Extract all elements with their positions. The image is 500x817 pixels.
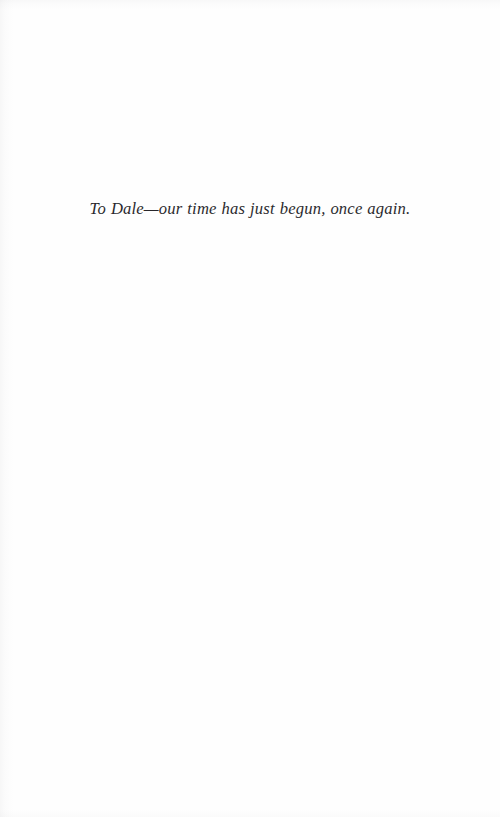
dedication-text: To Dale—our time has just begun, once ag… <box>90 198 411 220</box>
book-page: To Dale—our time has just begun, once ag… <box>0 0 500 817</box>
scan-edge-left <box>0 0 14 817</box>
dedication-block: To Dale—our time has just begun, once ag… <box>0 198 500 220</box>
scan-edge-bottom <box>0 810 500 817</box>
scan-edge-top <box>0 0 500 9</box>
